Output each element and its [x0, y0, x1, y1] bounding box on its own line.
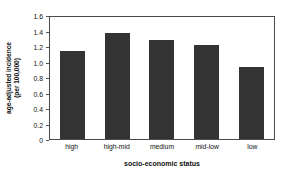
y-axis-tick-label: 1.4 — [34, 28, 43, 35]
bar-chart-figure: age-adjusted incidence (per 100,000) 1.6… — [0, 0, 289, 182]
bar — [105, 33, 130, 139]
y-axis-tick-label: 0.2 — [34, 121, 43, 128]
x-axis-tick-label: high-mid — [95, 143, 139, 150]
x-axis-tick-label: medium — [140, 143, 184, 150]
y-axis-tick-mark — [46, 78, 49, 79]
bar — [149, 40, 174, 139]
y-axis-title: age-adjusted incidence (per 100,000) — [0, 16, 26, 140]
x-axis-tick-labels: highhigh-midmediummid-lowlow — [49, 143, 275, 155]
bar — [194, 45, 219, 139]
y-axis-tick-mark — [46, 94, 49, 95]
x-axis-tick-label: high — [50, 143, 94, 150]
y-axis-tick-mark — [46, 16, 49, 17]
bar-series — [50, 17, 274, 139]
x-axis-tick-label: low — [230, 143, 274, 150]
y-axis-tick-mark — [46, 47, 49, 48]
y-axis-title-line2: (per 100,000) — [13, 42, 21, 114]
bar — [239, 67, 264, 139]
x-axis-tick-label: mid-low — [185, 143, 229, 150]
y-axis-tick-mark — [46, 125, 49, 126]
plot-area — [49, 16, 275, 140]
y-axis-tick-labels: 1.61.41.21.00.80.60.40.20 — [24, 16, 46, 140]
y-axis-tick-label: 0 — [39, 137, 43, 144]
x-axis-title: socio-economic status — [49, 160, 275, 167]
y-axis-tick-mark — [46, 109, 49, 110]
y-axis-tick-label: 1.6 — [34, 13, 43, 20]
y-axis-tick-label: 1.0 — [34, 59, 43, 66]
y-axis-tick-label: 0.8 — [34, 75, 43, 82]
y-axis-tick-mark — [46, 140, 49, 141]
y-axis-tick-label: 1.2 — [34, 44, 43, 51]
y-axis-tick-mark — [46, 63, 49, 64]
y-axis-tick-label: 0.6 — [34, 90, 43, 97]
bar — [60, 51, 85, 139]
y-axis-title-line1: age-adjusted incidence — [5, 42, 12, 114]
y-axis-tick-label: 0.4 — [34, 106, 43, 113]
y-axis-tick-mark — [46, 32, 49, 33]
